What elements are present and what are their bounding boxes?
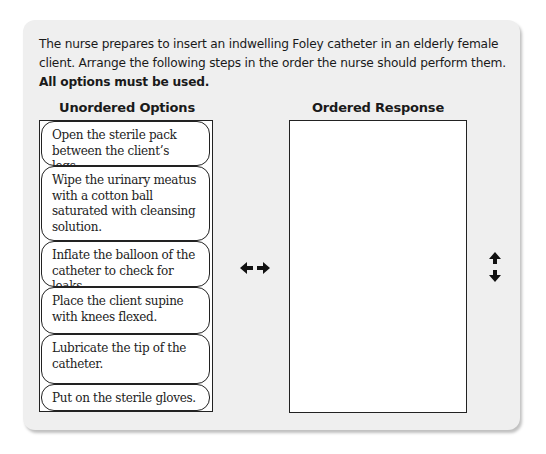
unordered-options-list: Open the sterile pack between the client… <box>39 120 213 412</box>
prompt-instruction: All options must be used. <box>39 73 509 92</box>
option-item[interactable]: Inflate the balloon of the catheter to c… <box>41 241 210 287</box>
question-prompt: The nurse prepares to insert an indwelli… <box>39 35 509 92</box>
left-right-arrow-icon[interactable] <box>240 260 270 276</box>
option-item[interactable]: Lubricate the tip of the catheter. <box>41 334 210 384</box>
ordered-response-dropzone[interactable] <box>289 120 467 413</box>
up-down-arrow-icon[interactable] <box>489 252 501 282</box>
option-item[interactable]: Place the client supine with knees flexe… <box>41 287 210 334</box>
ordered-response-heading: Ordered Response <box>289 100 467 115</box>
option-item[interactable]: Wipe the urinary meatus with a cotton ba… <box>41 166 210 241</box>
option-item[interactable]: Open the sterile pack between the client… <box>41 121 210 166</box>
option-item[interactable]: Put on the sterile gloves. <box>41 384 210 411</box>
prompt-text: The nurse prepares to insert an indwelli… <box>39 37 506 70</box>
unordered-options-heading: Unordered Options <box>39 100 215 115</box>
